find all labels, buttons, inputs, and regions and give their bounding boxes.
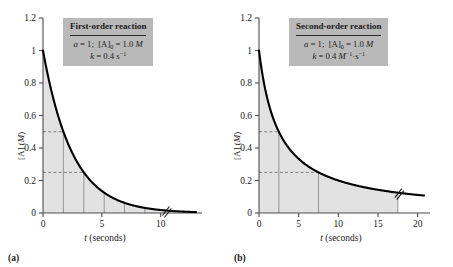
y-tick-label: 0.8 [240,78,252,88]
x-tick-label: 10 [156,219,166,229]
info-box-line2-b: k = 0.4 M−1·s−1 [296,51,381,62]
y-tick-label: 0 [247,208,252,218]
panel-first-order: 00.20.40.60.811.20510 [A] (M) t (seconds… [0,0,226,267]
info-box-line1-a: a = 1; [A]0 = 1.0 M [70,39,146,51]
panel-sublabel-a: (a) [8,253,19,263]
first-order-info-box: First-order reaction a = 1; [A]0 = 1.0 M… [63,18,153,66]
x-tick-label: 0 [257,219,262,229]
y-tick-label: 0 [31,208,36,218]
panel-sublabel-b: (b) [234,253,246,263]
y-tick-label: 1.2 [24,13,36,23]
x-tick-label: 15 [373,219,383,229]
info-box-line2-a: k = 0.4 s−1 [70,51,146,62]
y-axis-label-b: [A] (M) [232,132,242,160]
y-tick-label: 0.2 [24,176,36,186]
x-tick-label: 5 [99,219,104,229]
x-axis-label-b: t (seconds) [266,233,416,243]
y-tick-label: 1 [247,46,252,56]
kinetics-figure: 00.20.40.60.811.20510 [A] (M) t (seconds… [0,0,453,267]
x-tick-label: 0 [41,219,46,229]
info-box-title-a: First-order reaction [70,21,146,36]
y-tick-label: 0.6 [240,111,252,121]
y-axis-label-a: [A] (M) [16,132,26,160]
panel-second-order: 00.20.40.60.811.205101520 [A] (M) t (sec… [226,0,453,267]
info-box-line1-b: a = 1; [A]0 = 1.0 M [296,39,381,51]
x-tick-label: 10 [334,219,344,229]
x-tick-label: 5 [296,219,301,229]
info-box-title-b: Second-order reaction [296,21,381,36]
second-order-info-box: Second-order reaction a = 1; [A]0 = 1.0 … [289,18,388,66]
y-tick-label: 0.2 [240,176,252,186]
y-tick-label: 0.8 [24,78,36,88]
x-axis-label-a: t (seconds) [40,233,170,243]
y-tick-label: 1 [31,46,36,56]
y-tick-label: 0.6 [24,111,36,121]
y-tick-label: 1.2 [240,13,252,23]
x-tick-label: 20 [413,219,423,229]
